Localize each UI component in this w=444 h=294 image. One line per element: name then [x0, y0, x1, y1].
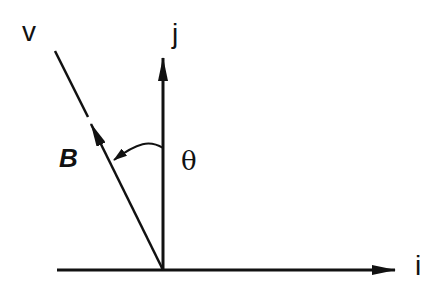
theta-label: θ [181, 148, 197, 174]
j-label: j [172, 20, 178, 48]
v-label: v [22, 18, 36, 46]
i-label: i [415, 252, 421, 280]
v-direction-line [55, 51, 88, 117]
vector-diagram: v j i B θ [0, 0, 444, 294]
b-label: B [59, 145, 78, 171]
theta-angle-arc [114, 144, 163, 160]
b-vector-arrow [91, 124, 163, 270]
